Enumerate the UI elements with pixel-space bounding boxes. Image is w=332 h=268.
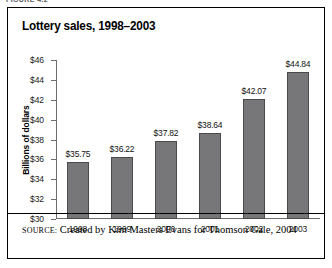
bar-value-label: $36.22 — [110, 144, 135, 154]
bar[interactable] — [199, 133, 221, 219]
bar[interactable] — [243, 99, 265, 219]
bar-group[interactable]: $44.842003 — [276, 60, 320, 219]
bar[interactable] — [155, 141, 177, 219]
bar-value-label: $37.82 — [154, 128, 179, 138]
bar[interactable] — [67, 162, 89, 219]
y-axis-tick-label: $30 — [30, 214, 44, 224]
y-axis-tick-label: $32 — [30, 194, 44, 204]
bar-value-label: $35.75 — [66, 149, 91, 159]
bar-group[interactable]: $35.751998 — [56, 60, 100, 219]
source-divider — [8, 213, 324, 214]
y-axis-tick-label: $36 — [30, 154, 44, 164]
figure-caption-partial: FIGURE 4.2 — [6, 0, 126, 4]
y-axis-tick-label: $44 — [30, 75, 44, 85]
source-text: Created by Kim Masters Evans for Thomson… — [60, 224, 297, 235]
bar-value-label: $44.84 — [286, 59, 311, 69]
source-label: SOURCE: — [22, 226, 57, 235]
bar[interactable] — [111, 157, 133, 219]
bar-value-label: $42.07 — [242, 86, 267, 96]
chart-title: Lottery sales, 1998–2003 — [22, 19, 155, 33]
source-note: SOURCE: Created by Kim Masters Evans for… — [22, 224, 297, 235]
bar-group[interactable]: $38.642001 — [188, 60, 232, 219]
bar-group[interactable]: $36.221999 — [100, 60, 144, 219]
bar-group[interactable]: $42.072002 — [232, 60, 276, 219]
y-axis-tick-label: $42 — [30, 95, 44, 105]
y-axis-tick: $30 — [51, 219, 56, 220]
y-axis-tick-label: $46 — [30, 55, 44, 65]
y-axis-tick-label: $38 — [30, 135, 44, 145]
y-axis-tick-label: $34 — [30, 174, 44, 184]
bar-value-label: $38.64 — [198, 120, 223, 130]
bar[interactable] — [287, 72, 309, 219]
plot-area: $46$44$42$40$38$36$34$32$30 $35.751998$3… — [56, 60, 320, 219]
bar-group[interactable]: $37.822000 — [144, 60, 188, 219]
figure-box: Lottery sales, 1998–2003 Billions of dol… — [7, 7, 325, 259]
y-axis-tick-label: $40 — [30, 115, 44, 125]
figure-container: FIGURE 4.2 Lottery sales, 1998–2003 Bill… — [0, 0, 332, 268]
